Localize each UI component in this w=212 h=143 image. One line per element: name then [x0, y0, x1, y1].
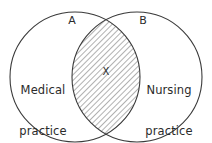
set-a-name-line1: Medical [10, 84, 76, 98]
set-a-name-label: Medical practice [10, 57, 76, 143]
set-b-letter-label: B [131, 15, 155, 28]
set-a-name-line2: practice [10, 125, 76, 139]
set-a-letter-label: A [60, 15, 84, 28]
set-b-name-label: Nursing practice [135, 57, 203, 143]
venn-diagram-figure: A B Medical practice Nursing practice X [0, 0, 212, 143]
intersection-letter-label: X [94, 66, 118, 78]
set-b-name-line1: Nursing [135, 84, 203, 98]
set-b-name-line2: practice [135, 125, 203, 139]
